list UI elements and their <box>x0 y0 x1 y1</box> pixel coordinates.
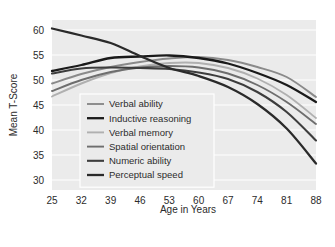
chart-figure: 30354045505560 25323946536067748188 Verb… <box>0 0 335 247</box>
y-tick-label: 30 <box>33 175 45 186</box>
legend-label: Perceptual speed <box>109 169 183 180</box>
x-tick-label: 32 <box>76 195 88 206</box>
x-tick-label: 88 <box>310 195 322 206</box>
x-tick-label: 74 <box>252 195 264 206</box>
x-tick-label: 25 <box>46 195 58 206</box>
legend-label: Spatial orientation <box>109 141 185 152</box>
chart-legend: Verbal abilityInductive reasoningVerbal … <box>80 94 214 187</box>
x-axis-title: Age in Years <box>160 204 216 215</box>
x-tick-label: 67 <box>222 195 234 206</box>
y-tick-label: 45 <box>33 100 45 111</box>
line-chart: 30354045505560 25323946536067748188 Verb… <box>0 0 335 247</box>
y-tick-label: 40 <box>33 125 45 136</box>
y-tick-label: 50 <box>33 75 45 86</box>
y-tick-label: 55 <box>33 50 45 61</box>
y-tick-label: 60 <box>33 25 45 36</box>
x-tick-label: 46 <box>134 195 146 206</box>
x-tick-label: 39 <box>105 195 117 206</box>
legend-label: Verbal ability <box>109 98 163 109</box>
legend-label: Numeric ability <box>109 155 172 166</box>
y-tick-label: 35 <box>33 150 45 161</box>
legend-label: Inductive reasoning <box>109 113 191 124</box>
legend-label: Verbal memory <box>109 127 173 138</box>
x-tick-label: 81 <box>281 195 293 206</box>
y-axis-title: Mean T-Score <box>8 73 19 136</box>
